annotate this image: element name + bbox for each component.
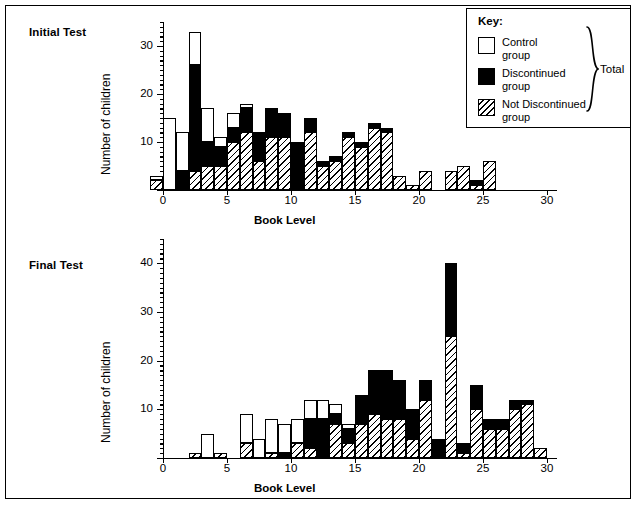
histogram-bar (201, 108, 214, 190)
y-tick-minor (160, 302, 164, 303)
bar-segment-control (227, 113, 240, 127)
x-tick-label: 5 (216, 462, 238, 474)
bar-segment-not-discontinued (189, 453, 202, 458)
bar-segment-not-discontinued (240, 132, 253, 190)
bar-segment-discontinued (227, 128, 240, 142)
histogram-bar (214, 137, 227, 190)
y-axis-line (163, 239, 164, 459)
histogram-bar (329, 404, 342, 458)
y-tick-minor (160, 89, 164, 90)
bar-segment-control (189, 32, 202, 66)
y-tick-minor (160, 297, 164, 298)
bar-segment-discontinued (368, 370, 381, 414)
bar-segment-discontinued (342, 429, 355, 444)
histogram-bar (304, 400, 317, 458)
bar-segment-control (176, 132, 189, 170)
histogram-bar (240, 414, 253, 458)
histogram-bar (521, 400, 534, 458)
figure-page: Initial Test Number of children Book Lev… (0, 0, 638, 506)
bar-segment-discontinued (445, 263, 458, 336)
bar-segment-discontinued (304, 118, 317, 132)
bar-segment-not-discontinued (368, 128, 381, 190)
bar-segment-control (278, 424, 291, 453)
y-tick-minor (160, 65, 164, 66)
bar-segment-discontinued (509, 400, 522, 410)
bar-segment-not-discontinued (496, 429, 509, 458)
bar-segment-discontinued (317, 161, 330, 166)
histogram-bar (393, 380, 406, 458)
y-tick-major (157, 263, 163, 264)
bar-segment-control (265, 419, 278, 453)
histogram-bar (317, 161, 330, 190)
y-tick-minor (160, 41, 164, 42)
y-axis-title-initial: Number of children (99, 74, 113, 175)
histogram-bar (483, 419, 496, 458)
bar-segment-control (329, 404, 342, 414)
bar-segment-control (253, 439, 266, 458)
histogram-bar (189, 32, 202, 190)
histogram-bar (406, 409, 419, 458)
bar-segment-discontinued (406, 409, 419, 438)
legend-key-box: Key: Control group Discontinued group No… (466, 8, 631, 128)
histogram-bar (150, 176, 163, 190)
bar-segment-not-discontinued (368, 414, 381, 458)
y-tick-minor (160, 268, 164, 269)
y-tick-minor (160, 253, 164, 254)
bar-segment-not-discontinued (201, 166, 214, 190)
bar-segment-discontinued (521, 400, 534, 405)
histogram-bar (317, 400, 330, 458)
x-tick-label: 10 (280, 462, 302, 474)
y-tick-minor (160, 113, 164, 114)
bar-segment-not-discontinued (419, 400, 432, 458)
bar-segment-not-discontinued (342, 137, 355, 190)
histogram-bar (534, 448, 547, 458)
y-tick-minor (160, 356, 164, 357)
y-tick-minor (160, 375, 164, 376)
histogram-bar (291, 142, 304, 190)
bar-segment-discontinued (317, 419, 330, 458)
bar-segment-not-discontinued (381, 132, 394, 190)
y-tick-minor (160, 404, 164, 405)
bar-segment-control (201, 108, 214, 142)
histogram-bar (342, 424, 355, 458)
bar-segment-discontinued (189, 65, 202, 171)
y-tick-minor (160, 80, 164, 81)
y-tick-minor (160, 60, 164, 61)
bar-segment-not-discontinued (278, 137, 291, 190)
x-tick-label: 20 (408, 194, 430, 206)
histogram-bar (265, 108, 278, 190)
y-tick-label: 30 (131, 305, 153, 317)
x-axis-line (163, 190, 557, 191)
bar-segment-control (317, 400, 330, 419)
x-tick-label: 0 (152, 194, 174, 206)
y-tick-minor (160, 322, 164, 323)
y-tick-minor (160, 395, 164, 396)
bar-segment-not-discontinued (214, 453, 227, 458)
y-tick-minor (160, 443, 164, 444)
bar-segment-discontinued (253, 132, 266, 161)
bar-segment-not-discontinued (253, 161, 266, 190)
y-tick-minor (160, 273, 164, 274)
histogram-bar (393, 176, 406, 190)
histogram-bar (496, 419, 509, 458)
x-tick-label: 15 (344, 194, 366, 206)
bar-segment-discontinued (483, 419, 496, 429)
bar-segment-not-discontinued (329, 424, 342, 458)
bar-segment-control (291, 419, 304, 443)
histogram-bar (163, 118, 176, 190)
histogram-bar (189, 453, 202, 458)
bar-segment-discontinued (470, 385, 483, 409)
y-tick-minor (160, 288, 164, 289)
bar-segment-not-discontinued (521, 404, 534, 458)
y-axis-title-final: Number of children (99, 342, 113, 443)
histogram-bar (457, 166, 470, 190)
bar-segment-not-discontinued (329, 161, 342, 190)
bar-segment-not-discontinued (304, 448, 317, 458)
bar-segment-not-discontinued (317, 166, 330, 190)
histogram-bar (368, 123, 381, 190)
y-tick-minor (160, 336, 164, 337)
histogram-bar (278, 113, 291, 190)
bar-segment-not-discontinued (393, 419, 406, 458)
y-tick-minor (160, 439, 164, 440)
histogram-bar (470, 385, 483, 458)
